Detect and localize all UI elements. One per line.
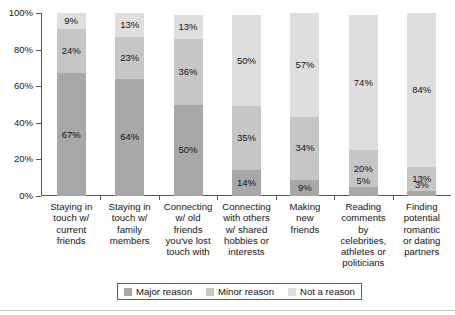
x-axis-labels: Staying intouch w/currentfriendsStaying …: [42, 201, 451, 261]
legend-label: Major reason: [136, 287, 192, 297]
bar-segment[interactable]: 57%: [290, 13, 319, 117]
bar-segment-label: 13%: [179, 22, 198, 32]
bar-group[interactable]: 64%23%13%: [115, 13, 144, 196]
y-tick-label: 20%: [14, 154, 33, 164]
x-category-label-line: partners: [393, 246, 451, 257]
x-category-label-line: current: [42, 224, 100, 235]
x-category-label-line: Staying in: [100, 201, 158, 212]
bar-group[interactable]: 9%34%57%: [290, 13, 319, 196]
x-category-label-line: comments: [334, 212, 392, 223]
x-category-label-line: friends: [42, 235, 100, 246]
x-tick-mark: [159, 196, 160, 200]
x-category-label-line: members: [100, 235, 158, 246]
legend-label: Not a reason: [300, 287, 355, 297]
bar-group[interactable]: 3%13%84%: [407, 13, 436, 196]
bar-stack: 14%35%50%: [232, 13, 261, 196]
x-category-label-line: new: [276, 212, 334, 223]
x-category-label: Readingcommentsby celebrities,athletes o…: [334, 201, 392, 269]
bar-segment-label: 50%: [237, 56, 256, 66]
x-category-label-line: Making: [276, 201, 334, 212]
bar-segment[interactable]: 34%: [290, 117, 319, 179]
bar-segment[interactable]: 50%: [174, 105, 203, 197]
x-category-label-line: Connecting: [159, 201, 217, 212]
x-category-label-line: Staying in: [42, 201, 100, 212]
bar-segment[interactable]: 9%: [290, 180, 319, 196]
bar-segment-label: 34%: [295, 143, 314, 153]
legend-item[interactable]: Major reason: [124, 287, 192, 297]
bar-segment-label: 35%: [237, 133, 256, 143]
bar-segment[interactable]: 23%: [115, 37, 144, 79]
legend-swatch-icon: [288, 288, 296, 296]
bar-segment-label: 74%: [354, 78, 373, 88]
bar-segment[interactable]: 13%: [174, 15, 203, 39]
x-tick-mark: [217, 196, 218, 200]
chart-legend: Major reasonMinor reasonNot a reason: [117, 283, 362, 300]
x-tick-mark: [334, 196, 335, 200]
bar-segment[interactable]: 5%: [349, 187, 378, 196]
legend-swatch-icon: [206, 288, 214, 296]
page-divider: [0, 310, 455, 311]
legend-item[interactable]: Minor reason: [206, 287, 274, 297]
legend-item[interactable]: Not a reason: [288, 287, 355, 297]
x-tick-mark: [100, 196, 101, 200]
bar-stack: 67%24%9%: [57, 13, 86, 196]
bar-segment-label: 84%: [412, 85, 431, 95]
bar-segment-label: 9%: [298, 183, 312, 193]
bar-segment-label: 9%: [64, 16, 78, 26]
bar-stack: 3%13%84%: [407, 13, 436, 196]
legend-label: Minor reason: [218, 287, 274, 297]
bar-group[interactable]: 5%20%74%: [349, 13, 378, 196]
bar-segment-label: 67%: [62, 130, 81, 140]
y-tick-mark: [36, 196, 41, 197]
x-category-label-line: Connecting: [217, 201, 275, 212]
bar-stack: 9%34%57%: [290, 13, 319, 196]
bar-segment-label: 13%: [120, 20, 139, 30]
x-category-label-line: romantic: [393, 224, 451, 235]
bar-segment-label: 50%: [179, 145, 198, 155]
bar-segment[interactable]: 67%: [57, 73, 86, 196]
bar-segment[interactable]: 50%: [232, 15, 261, 107]
x-category-label-line: by celebrities,: [334, 224, 392, 247]
bar-segment[interactable]: 84%: [407, 13, 436, 167]
x-category-label-line: Reading: [334, 201, 392, 212]
bar-segment-label: 36%: [179, 67, 198, 77]
bar-segment[interactable]: 14%: [232, 170, 261, 196]
x-category-label-line: w/ old: [159, 212, 217, 223]
y-tick-label: 40%: [14, 118, 33, 128]
x-category-label: Makingnewfriends: [276, 201, 334, 235]
bar-group[interactable]: 14%35%50%: [232, 13, 261, 196]
x-category-label-line: with others: [217, 212, 275, 223]
y-tick-label: 100%: [9, 8, 33, 18]
x-category-label-line: potential: [393, 212, 451, 223]
x-category-label-line: or dating: [393, 235, 451, 246]
x-category-label-line: politicians: [334, 257, 392, 268]
bar-segment-label: 24%: [62, 46, 81, 56]
x-tick-mark: [393, 196, 394, 200]
bar-segment[interactable]: 24%: [57, 29, 86, 73]
x-category-label-line: family: [100, 224, 158, 235]
x-tick-mark: [276, 196, 277, 200]
bar-stack: 5%20%74%: [349, 13, 378, 196]
bar-group[interactable]: 50%36%13%: [174, 13, 203, 196]
bar-group[interactable]: 67%24%9%: [57, 13, 86, 196]
y-axis: 100%80%60%40%20%0%: [0, 0, 41, 196]
legend-swatch-icon: [124, 288, 132, 296]
bar-segment[interactable]: 74%: [349, 15, 378, 150]
x-category-label: Staying intouch w/currentfriends: [42, 201, 100, 246]
bar-segment[interactable]: 9%: [57, 13, 86, 29]
bars-layer: 67%24%9%64%23%13%50%36%13%14%35%50%9%34%…: [42, 13, 451, 196]
bar-segment[interactable]: 36%: [174, 39, 203, 105]
x-category-label-line: touch w/: [42, 212, 100, 223]
x-category-label-line: friends: [276, 224, 334, 235]
bar-segment[interactable]: 35%: [232, 106, 261, 170]
bar-segment-label: 5%: [356, 176, 370, 186]
x-category-label-line: athletes or: [334, 246, 392, 257]
bar-segment-label: 64%: [120, 132, 139, 142]
x-category-label-line: w/ shared: [217, 224, 275, 235]
bar-segment[interactable]: 64%: [115, 79, 144, 196]
y-tick-label: 60%: [14, 81, 33, 91]
x-category-label-line: you've lost: [159, 235, 217, 246]
x-category-label: Connectingw/ oldfriendsyou've losttouch …: [159, 201, 217, 257]
y-tick-label: 0%: [19, 191, 33, 201]
bar-segment[interactable]: 13%: [115, 13, 144, 37]
